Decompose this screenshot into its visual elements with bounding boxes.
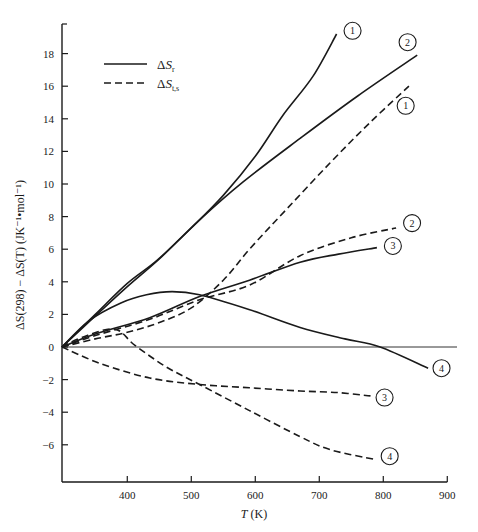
x-axis-title: T (K) <box>241 507 267 521</box>
y-tick-label: 4 <box>49 276 55 288</box>
y-axis-title: ΔS(298) − ΔS(T) (JK⁻¹•mol⁻¹) <box>13 180 27 330</box>
label-number: 1 <box>350 25 355 36</box>
curve-label-3: 3 <box>376 389 393 406</box>
y-tick-label: −6 <box>42 439 54 451</box>
y-tick-label: −2 <box>42 374 54 386</box>
curve-label-1: 1 <box>344 22 361 39</box>
axes: −6−4−2024681012141618400500600700800900 <box>42 24 457 501</box>
curves <box>62 34 428 460</box>
x-tick-label: 600 <box>247 489 264 501</box>
legend-label: ΔSt,s <box>157 76 179 93</box>
label-number: 2 <box>405 37 410 48</box>
curve-labels: 12123434 <box>344 22 450 464</box>
curve-label-4: 4 <box>433 360 450 377</box>
label-number: 4 <box>439 363 444 374</box>
curve-label-1: 1 <box>397 97 414 114</box>
entropy-difference-chart: −6−4−2024681012141618400500600700800900 … <box>0 0 478 532</box>
dashed-curve-3 <box>62 347 371 396</box>
dashed-curve-4 <box>62 329 375 460</box>
chart-canvas: −6−4−2024681012141618400500600700800900 … <box>0 0 478 532</box>
y-tick-label: −4 <box>42 406 54 418</box>
curve-label-2: 2 <box>404 215 421 232</box>
curve-label-4: 4 <box>381 448 398 465</box>
y-tick-label: 16 <box>43 80 55 92</box>
legend: ΔSrΔSt,s <box>104 57 179 93</box>
curve-label-2: 2 <box>399 34 416 51</box>
x-tick-label: 700 <box>311 489 328 501</box>
label-number: 3 <box>390 240 395 251</box>
label-number: 2 <box>410 218 415 229</box>
y-tick-label: 18 <box>43 48 55 60</box>
solid-curve-2 <box>62 55 417 347</box>
y-tick-label: 12 <box>43 145 54 157</box>
dashed-curve-1 <box>62 86 409 347</box>
curve-label-3: 3 <box>384 237 401 254</box>
label-number: 1 <box>403 100 408 111</box>
y-tick-label: 6 <box>49 243 55 255</box>
x-tick-label: 800 <box>375 489 392 501</box>
y-tick-label: 14 <box>43 113 55 125</box>
legend-label: ΔSr <box>157 57 175 74</box>
y-tick-label: 10 <box>43 178 55 190</box>
x-tick-label: 900 <box>439 489 456 501</box>
x-tick-label: 400 <box>119 489 136 501</box>
y-tick-label: 0 <box>49 341 55 353</box>
y-tick-label: 8 <box>49 211 55 223</box>
x-tick-label: 500 <box>183 489 200 501</box>
y-tick-label: 2 <box>49 308 55 320</box>
label-number: 3 <box>382 392 387 403</box>
label-number: 4 <box>387 451 392 462</box>
